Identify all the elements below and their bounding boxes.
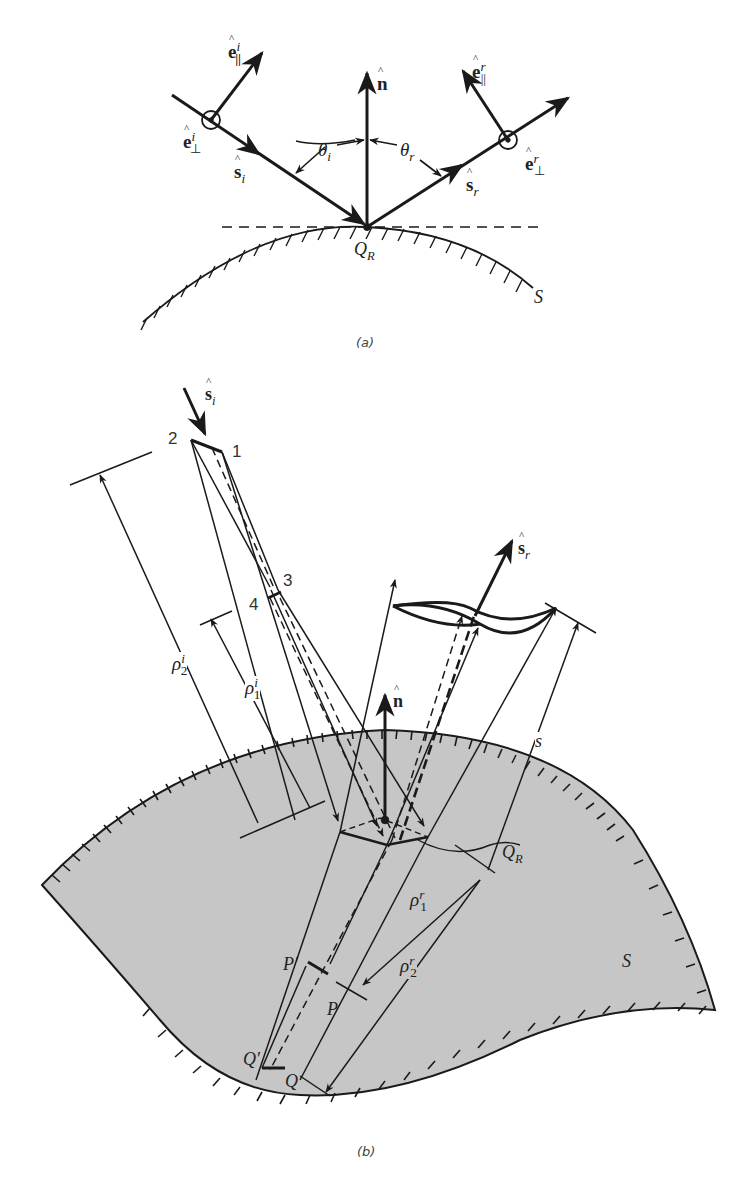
label-s-r-a: sr <box>466 175 479 198</box>
label-corner-4: 4 <box>249 596 258 613</box>
label-rho1-r: ρr1 <box>410 888 427 913</box>
incident-ray-a <box>172 95 364 224</box>
label-theta-r: θr <box>400 140 415 163</box>
rho2-i-dimension <box>100 475 258 823</box>
panel-a <box>141 53 568 330</box>
label-q-r-b: QR <box>502 843 523 865</box>
panel-b <box>42 388 715 1104</box>
incident-direction-arrow <box>184 388 205 434</box>
caption-a: (a) <box>356 336 374 349</box>
label-e-par-i: ei|| <box>228 40 241 65</box>
label-q-prime: Q′ <box>243 1050 260 1068</box>
label-theta-i: θi <box>318 140 331 163</box>
surface-curve-a <box>143 227 533 322</box>
label-e-perp-r: er⊥ <box>525 152 545 177</box>
reflection-diagram <box>0 0 746 1180</box>
rho1-i-top-tick <box>200 611 232 625</box>
label-q: Q <box>285 1072 298 1090</box>
label-rho2-r: ρr2 <box>400 954 417 979</box>
label-q-r-a: QR <box>354 240 375 262</box>
label-corner-1: 1 <box>232 443 241 460</box>
label-p: P <box>327 1000 338 1018</box>
label-surface-s-b: S <box>622 952 631 970</box>
label-rho2-i: ρi2 <box>172 652 187 677</box>
label-p-prime: P′ <box>283 955 298 973</box>
label-n-b: n <box>393 692 403 710</box>
label-corner-3: 3 <box>283 572 292 589</box>
label-s-distance: s <box>535 732 542 750</box>
label-s-i-b: si <box>205 385 216 407</box>
label-e-par-r: er|| <box>472 60 486 85</box>
label-rho1-i: ρi1 <box>245 676 260 701</box>
label-s-i-a: si <box>234 162 245 185</box>
s-tick-top <box>545 603 596 633</box>
label-surface-s-a: S <box>534 288 543 306</box>
reflected-direction-arrow <box>475 541 512 616</box>
label-n-a: n <box>377 74 388 93</box>
surface-hatch-a <box>141 227 522 330</box>
rho2-i-top-tick <box>70 452 152 485</box>
label-e-perp-i: ei⊥ <box>183 130 201 155</box>
caption-b: (b) <box>357 1145 375 1158</box>
label-s-r-b: sr <box>518 539 530 561</box>
surface-patch-b <box>42 730 715 1095</box>
label-corner-2: 2 <box>168 430 177 447</box>
